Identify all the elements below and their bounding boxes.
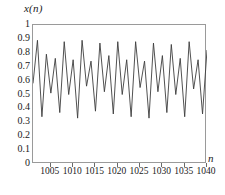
y-tick-label: 1	[2, 19, 30, 29]
x-tick-label: 1040	[193, 166, 219, 176]
y-tick-label: 0.4	[2, 102, 30, 112]
chart-figure: x(n) n 00.10.20.30.40.50.60.70.80.91 100…	[0, 0, 225, 195]
data-series-line	[33, 40, 207, 118]
x-axis-label-text: n	[208, 152, 214, 164]
x-axis-label: n	[208, 152, 214, 164]
y-tick-label: 0.7	[2, 61, 30, 71]
y-tick-label: 0.2	[2, 130, 30, 140]
y-tick-label: 0.1	[2, 144, 30, 154]
y-tick-label-group: 00.10.20.30.40.50.60.70.80.91	[0, 0, 30, 195]
y-tick-label: 0.9	[2, 33, 30, 43]
series-canvas	[33, 25, 207, 164]
y-tick-label: 0.8	[2, 47, 30, 57]
plot-area	[32, 24, 206, 163]
y-tick-label: 0.5	[2, 89, 30, 99]
y-tick-label: 0.3	[2, 116, 30, 126]
y-tick-label: 0.6	[2, 75, 30, 85]
y-tick-label: 0	[2, 158, 30, 168]
